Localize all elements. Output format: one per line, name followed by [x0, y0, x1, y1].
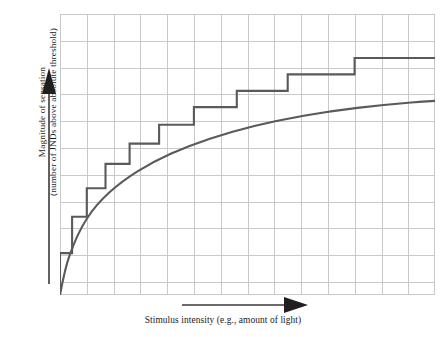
plot-area — [60, 14, 435, 295]
up-arrow-icon — [40, 66, 58, 288]
psychophysics-chart-figure: Magnitude of sensation (number of JNDs a… — [0, 0, 446, 337]
right-arrow-icon — [180, 296, 310, 314]
sensation-curve-series — [60, 101, 435, 295]
chart-curves — [60, 14, 435, 295]
x-axis-label: Stimulus intensity (e.g., amount of ligh… — [0, 315, 446, 325]
jnd-staircase-series — [60, 58, 435, 295]
